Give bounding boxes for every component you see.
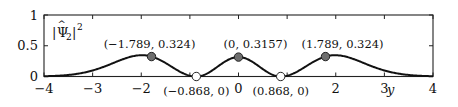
point-annotation: (−0.868, 0) xyxy=(163,84,229,98)
ylabel-hat: ^ xyxy=(58,18,66,29)
ylabel-bar-right: | xyxy=(72,25,76,40)
x-tick-label: −2 xyxy=(132,81,151,96)
x-tick-label: 0 xyxy=(234,81,242,96)
peak-marker xyxy=(321,52,329,60)
zero-marker xyxy=(192,72,200,80)
y-tick-label: 0 xyxy=(30,69,38,84)
y-tick-label: 0.5 xyxy=(17,38,38,53)
x-axis-label: y xyxy=(386,82,395,97)
ylabel-superscript: 2 xyxy=(77,22,83,32)
x-tick-label: −3 xyxy=(83,81,102,96)
x-tick-label: 2 xyxy=(332,81,340,96)
point-annotation: (−1.789, 0.324) xyxy=(104,37,196,51)
point-annotation: (1.789, 0.324) xyxy=(301,37,383,51)
peak-marker xyxy=(234,53,242,61)
peak-marker xyxy=(147,52,155,60)
point-annotation: (0.868, 0) xyxy=(252,84,309,98)
y-tick-label: 1 xyxy=(30,8,38,23)
plot: (−1.789, 0.324)(0, 0.3157)(1.789, 0.324)… xyxy=(0,0,458,107)
y-axis-label: | Ψ ^ 2 | 2 xyxy=(52,18,83,42)
ylabel-bar-left: | xyxy=(52,25,56,40)
point-annotation: (0, 0.3157) xyxy=(224,37,288,51)
ylabel-subscript: 2 xyxy=(66,32,72,42)
x-tick-label: 4 xyxy=(429,81,437,96)
zero-marker xyxy=(277,72,285,80)
